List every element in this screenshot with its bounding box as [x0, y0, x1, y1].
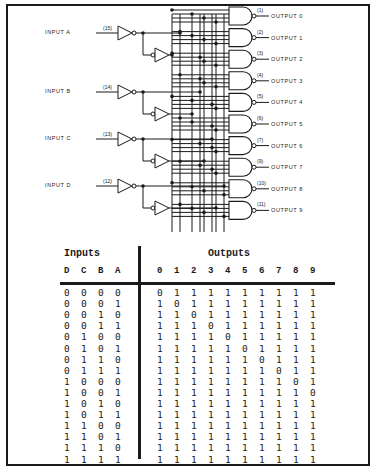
table-cell: 1 — [174, 376, 180, 387]
table-cell: 1 — [259, 387, 265, 398]
table-cell: 1 — [191, 398, 197, 409]
input-pin-a: (15) — [103, 25, 112, 31]
table-cell: 1 — [115, 298, 121, 309]
output-label-0: OUTPUT 0 — [271, 13, 303, 19]
table-cell: 1 — [293, 298, 299, 309]
output-header-9: 9 — [310, 266, 315, 276]
table-cell: 1 — [208, 331, 214, 342]
table-cell: 1 — [242, 454, 248, 465]
table-cell: 1 — [98, 354, 104, 365]
table-cell: 1 — [259, 287, 265, 298]
table-cell: 0 — [115, 376, 121, 387]
table-cell: 1 — [310, 376, 316, 387]
table-cell: 1 — [157, 365, 163, 376]
table-cell: 1 — [98, 454, 104, 465]
table-cell: 0 — [81, 376, 87, 387]
table-cell: 1 — [225, 454, 231, 465]
nand-gate-icon — [229, 50, 256, 68]
table-cell: 1 — [310, 365, 316, 376]
table-cell: 1 — [293, 398, 299, 409]
table-cell: 1 — [208, 365, 214, 376]
table-cell: 1 — [276, 343, 282, 354]
input-label-b: INPUT B — [45, 88, 71, 94]
table-cell: 1 — [293, 365, 299, 376]
table-cell: 1 — [208, 354, 214, 365]
table-cell: 1 — [81, 343, 87, 354]
table-cell: 1 — [64, 398, 70, 409]
table-cell: 1 — [174, 420, 180, 431]
table-cell: 1 — [225, 287, 231, 298]
table-cell: 1 — [64, 376, 70, 387]
buffer-icon — [155, 107, 169, 121]
input-pin-c: (13) — [103, 131, 112, 137]
table-cell: 0 — [310, 387, 316, 398]
table-cell: 1 — [81, 365, 87, 376]
output-header-8: 8 — [293, 266, 298, 276]
table-cell: 1 — [259, 343, 265, 354]
table-cell: 0 — [81, 298, 87, 309]
table-cell: 1 — [115, 454, 121, 465]
table-cell: 0 — [98, 298, 104, 309]
table-vertical-divider — [138, 246, 141, 459]
table-cell: 1 — [276, 287, 282, 298]
table-cell: 1 — [191, 365, 197, 376]
table-cell: 1 — [293, 409, 299, 420]
table-cell: 1 — [242, 320, 248, 331]
output-pin-3: (4) — [257, 72, 263, 78]
table-cell: 1 — [225, 354, 231, 365]
table-cell: 1 — [64, 454, 70, 465]
table-cell: 0 — [191, 309, 197, 320]
table-cell: 1 — [259, 454, 265, 465]
table-cell: 0 — [157, 287, 163, 298]
table-cell: 1 — [242, 431, 248, 442]
table-cell: 1 — [310, 287, 316, 298]
table-cell: 1 — [310, 343, 316, 354]
table-cell: 1 — [157, 387, 163, 398]
table-cell: 1 — [259, 376, 265, 387]
table-cell: 1 — [115, 320, 121, 331]
table-cell: 1 — [310, 431, 316, 442]
table-cell: 1 — [242, 365, 248, 376]
buffer-icon — [155, 48, 169, 62]
table-cell: 1 — [259, 320, 265, 331]
input-header-a: A — [115, 266, 120, 276]
nand-gate-icon — [229, 158, 256, 176]
table-cell: 1 — [242, 409, 248, 420]
table-cell: 1 — [310, 298, 316, 309]
table-cell: 1 — [81, 331, 87, 342]
table-cell: 1 — [242, 298, 248, 309]
inverter-icon — [118, 132, 136, 146]
table-cell: 0 — [81, 398, 87, 409]
table-cell: 0 — [98, 387, 104, 398]
table-cell: 1 — [98, 309, 104, 320]
output-pin-0: (1) — [257, 7, 263, 13]
table-cell: 1 — [174, 431, 180, 442]
input-header-d: D — [64, 266, 69, 276]
table-cell: 1 — [293, 309, 299, 320]
table-cell: 1 — [259, 442, 265, 453]
table-cell: 1 — [276, 320, 282, 331]
table-cell: 1 — [293, 331, 299, 342]
table-cell: 1 — [259, 431, 265, 442]
table-cell: 1 — [81, 431, 87, 442]
table-cell: 1 — [310, 442, 316, 453]
table-cell: 1 — [310, 454, 316, 465]
inverter-icon — [118, 179, 136, 193]
nand-gate-icon — [229, 137, 256, 155]
table-cell: 1 — [81, 454, 87, 465]
table-cell: 1 — [310, 420, 316, 431]
table-cell: 0 — [64, 320, 70, 331]
table-cell: 1 — [293, 287, 299, 298]
table-cell: 1 — [242, 331, 248, 342]
output-header-4: 4 — [225, 266, 230, 276]
table-cell: 1 — [157, 376, 163, 387]
table-cell: 1 — [225, 320, 231, 331]
output-header-3: 3 — [208, 266, 213, 276]
output-pin-2: (3) — [257, 50, 263, 56]
table-cell: 1 — [191, 320, 197, 331]
table-cell: 1 — [242, 398, 248, 409]
table-cell: 1 — [225, 365, 231, 376]
table-cell: 0 — [64, 298, 70, 309]
output-header-1: 1 — [174, 266, 179, 276]
table-cell: 0 — [115, 442, 121, 453]
